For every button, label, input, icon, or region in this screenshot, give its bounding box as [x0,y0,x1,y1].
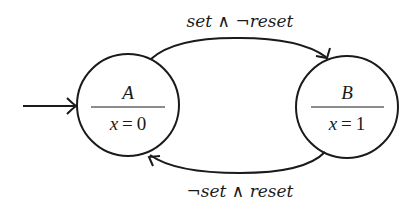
state-a[interactable]: A x=0 [77,54,179,156]
transition-a-to-b[interactable]: set ∧ ¬reset [151,11,330,59]
transition-a-to-b-label: set ∧ ¬reset [187,11,294,31]
transition-b-to-a[interactable]: ¬set ∧ reset [149,152,325,201]
state-b[interactable]: B x=1 [296,56,398,158]
state-diagram: A x=0 B x=1 set ∧ ¬reset ¬set ∧ reset [0,0,420,211]
state-b-output: x=1 [328,113,366,134]
state-b-name: B [341,82,353,103]
transition-b-to-a-label: ¬set ∧ reset [187,181,294,201]
initial-arrow [23,98,76,114]
state-a-output: x=0 [109,113,147,134]
state-a-name: A [120,82,134,103]
